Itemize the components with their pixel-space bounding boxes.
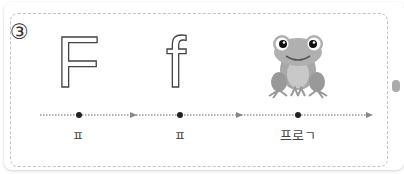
exercise-number: ③ bbox=[10, 22, 29, 43]
sound-label-1: ㅍ bbox=[48, 129, 108, 142]
sound-label-3: 프로ㄱ bbox=[268, 129, 328, 142]
uppercase-letter: F bbox=[56, 26, 100, 98]
scroll-handle bbox=[392, 80, 400, 92]
frog-icon bbox=[265, 30, 331, 100]
timeline bbox=[40, 112, 375, 118]
sound-label-2: ㅍ bbox=[150, 129, 210, 142]
lowercase-letter: f bbox=[166, 26, 186, 98]
